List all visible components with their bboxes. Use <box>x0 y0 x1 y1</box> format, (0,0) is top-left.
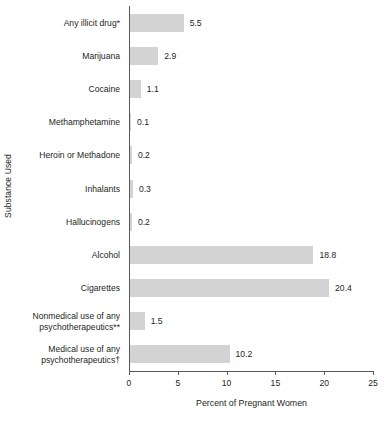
bar-row: Alcohol18.8 <box>129 246 373 264</box>
x-axis-tick-label: 25 <box>368 378 378 388</box>
bar <box>130 279 329 297</box>
bar <box>130 47 158 65</box>
category-label: Alcohol <box>8 250 120 261</box>
bar <box>130 113 131 131</box>
category-label: Methamphetamine <box>8 117 120 128</box>
x-axis-tick-label: 10 <box>222 378 232 388</box>
bar <box>130 80 141 98</box>
bar-value-label: 10.2 <box>236 349 253 359</box>
category-label: Medical use of any psychotherapeutics† <box>8 344 120 365</box>
x-axis-tick-label: 0 <box>127 378 132 388</box>
category-label: Marijuana <box>8 51 120 62</box>
bar <box>130 180 133 198</box>
bar <box>130 14 184 32</box>
bar-value-label: 0.1 <box>137 117 149 127</box>
x-axis-tick-label: 20 <box>319 378 329 388</box>
bar-value-label: 2.9 <box>164 51 176 61</box>
bar-value-label: 20.4 <box>335 283 352 293</box>
bar-value-label: 0.2 <box>138 150 150 160</box>
plot-area: Any illicit drug*5.5Marijuana2.9Cocaine1… <box>129 6 373 371</box>
bar <box>130 213 132 231</box>
category-label: Any illicit drug* <box>8 17 120 28</box>
x-axis-tick <box>227 371 228 375</box>
category-label: Hallucinogens <box>8 216 120 227</box>
category-label: Cigarettes <box>8 283 120 294</box>
x-axis-tick <box>178 371 179 375</box>
bar-row: Cigarettes20.4 <box>129 279 373 297</box>
bar-row: Inhalants0.3 <box>129 180 373 198</box>
bar-row: Methamphetamine0.1 <box>129 113 373 131</box>
bar-row: Cocaine1.1 <box>129 80 373 98</box>
bar-value-label: 0.3 <box>139 184 151 194</box>
bar <box>130 146 132 164</box>
bar <box>130 345 230 363</box>
bar <box>130 246 313 264</box>
category-label: Inhalants <box>8 183 120 194</box>
bar-row: Hallucinogens0.2 <box>129 213 373 231</box>
bar-value-label: 18.8 <box>319 250 336 260</box>
bar-chart: Substance Used Any illicit drug*5.5Marij… <box>0 0 384 421</box>
category-label: Heroin or Methadone <box>8 150 120 161</box>
bar-value-label: 1.5 <box>151 316 163 326</box>
x-axis-tick <box>324 371 325 375</box>
bar-value-label: 5.5 <box>190 18 202 28</box>
x-axis-spine <box>129 371 374 372</box>
bar-row: Heroin or Methadone0.2 <box>129 146 373 164</box>
x-axis-tick-label: 15 <box>271 378 281 388</box>
bar-value-label: 0.2 <box>138 217 150 227</box>
bar-row: Marijuana2.9 <box>129 47 373 65</box>
bar <box>130 312 145 330</box>
category-label: Cocaine <box>8 84 120 95</box>
bar-row: Medical use of any psychotherapeutics†10… <box>129 345 373 363</box>
x-axis-tick-label: 5 <box>175 378 180 388</box>
x-axis-tick <box>129 371 130 375</box>
category-label: Nonmedical use of any psychotherapeutics… <box>8 311 120 332</box>
bar-row: Any illicit drug*5.5 <box>129 14 373 32</box>
x-axis-tick <box>275 371 276 375</box>
x-axis-tick <box>373 371 374 375</box>
bar-row: Nonmedical use of any psychotherapeutics… <box>129 312 373 330</box>
x-axis-title: Percent of Pregnant Women <box>129 398 374 408</box>
bar-value-label: 1.1 <box>147 84 159 94</box>
